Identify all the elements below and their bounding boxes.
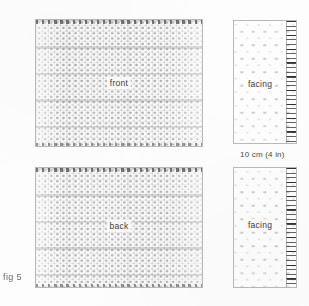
- figure-page: front facing 10 cm (4 in) back facing fi…: [0, 0, 309, 306]
- panel-label-front-facing: facing: [245, 78, 275, 90]
- swatch-back-body[interactable]: back: [35, 167, 203, 288]
- panel-label-front: front: [107, 77, 131, 89]
- ruler-strip-back-facing: [286, 168, 296, 287]
- panel-label-back: back: [107, 220, 132, 232]
- cast-on-edge-back: [36, 168, 202, 172]
- ruler-major-ticks: [287, 21, 296, 143]
- scale-caption: 10 cm (4 in): [240, 150, 285, 159]
- cast-on-edge-front: [36, 20, 202, 24]
- ruler-major-ticks: [287, 168, 296, 287]
- bound-off-edge-front: [36, 143, 202, 146]
- ruler-strip-front-facing: [286, 21, 296, 143]
- swatch-front-body[interactable]: front: [35, 19, 203, 147]
- swatch-front-facing[interactable]: facing: [233, 20, 297, 144]
- bound-off-edge-back: [36, 284, 202, 287]
- swatch-back-facing[interactable]: facing: [233, 167, 297, 288]
- panel-label-back-facing: facing: [245, 219, 275, 231]
- figure-caption: fig 5: [3, 272, 22, 282]
